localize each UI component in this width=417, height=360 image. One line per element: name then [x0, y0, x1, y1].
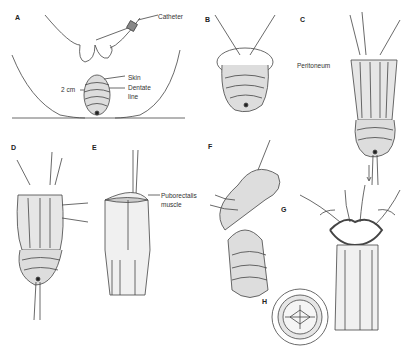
annotation-dentate: Dentate [128, 84, 151, 91]
annotation-muscle: muscle [161, 201, 182, 208]
panel-label-a: A [15, 14, 20, 21]
panel-label-f: F [208, 143, 212, 150]
panel-label-b: B [205, 16, 210, 23]
panel-label-c: C [300, 16, 305, 23]
annotation-skin: Skin [128, 74, 141, 81]
panel-label-e: E [92, 144, 97, 151]
annotation-catheter: Catheter [158, 13, 183, 20]
surgical-illustration-figure: A B C D E F G H Catheter Skin Dentate li… [0, 0, 417, 360]
panel-label-d: D [11, 144, 16, 151]
annotation-dentate-line: line [128, 93, 138, 100]
panel-label-h: H [262, 298, 267, 305]
annotation-puborectalis: Puborectalis [161, 192, 197, 199]
panel-label-g: G [281, 206, 286, 213]
annotation-peritoneum: Peritoneum [297, 62, 330, 69]
annotation-2cm: 2 cm [61, 86, 75, 93]
illustration-drawing [0, 0, 417, 360]
